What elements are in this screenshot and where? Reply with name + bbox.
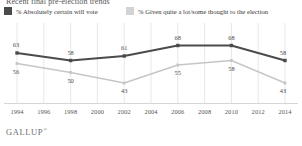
gallup-brand: GALLUP® <box>6 127 47 137</box>
data-point <box>230 59 233 62</box>
data-point <box>283 59 286 62</box>
data-point <box>16 62 19 65</box>
data-label: 43 <box>121 87 127 94</box>
data-label: 58 <box>67 49 73 56</box>
data-label: 68 <box>228 34 234 41</box>
legend-swatch-icon <box>126 7 134 15</box>
data-point <box>176 44 179 47</box>
x-tick-label: 2008 <box>198 108 211 115</box>
x-tick-label: 2002 <box>118 108 131 115</box>
data-point <box>230 44 233 47</box>
x-tick-label: 2012 <box>252 108 265 115</box>
chart-container: Recent final pre-election trends % Absol… <box>0 0 302 146</box>
x-axis: 1994199619982000200220042006200820102012… <box>0 108 302 120</box>
data-label: 43 <box>280 87 286 94</box>
x-tick-label: 1994 <box>10 108 23 115</box>
data-point <box>176 64 179 67</box>
chart-title: Recent final pre-election trends <box>6 0 110 6</box>
line-chart-svg: 565043555843635861686858 <box>0 21 302 107</box>
data-label: 68 <box>175 34 181 41</box>
legend-label: % Absolutely certain will vote <box>16 8 98 15</box>
data-label: 56 <box>13 68 19 75</box>
legend-label: % Given quite a lot/some thought to the … <box>138 8 268 15</box>
legend-item-certain-to-vote: % Absolutely certain will vote <box>4 7 98 15</box>
data-label: 58 <box>280 49 286 56</box>
data-point <box>284 82 287 85</box>
x-tick-label: 2010 <box>225 108 238 115</box>
data-label: 63 <box>13 41 19 48</box>
x-tick-label: 1998 <box>64 108 77 115</box>
x-tick-label: 2014 <box>278 108 291 115</box>
legend-item-thought-to-election: % Given quite a lot/some thought to the … <box>126 7 268 15</box>
x-tick-label: 2006 <box>171 108 184 115</box>
brand-text: GALLUP <box>6 127 43 137</box>
registered-mark: ® <box>43 127 47 132</box>
x-tick-label: 1996 <box>37 108 50 115</box>
x-tick-label: 2004 <box>144 108 157 115</box>
data-point <box>69 59 72 62</box>
data-point <box>69 71 72 74</box>
data-label: 55 <box>175 69 181 76</box>
data-label: 61 <box>121 44 127 51</box>
data-point <box>123 82 126 85</box>
chart-legend: % Absolutely certain will vote % Given q… <box>4 7 298 19</box>
data-label: 58 <box>228 65 234 72</box>
data-point <box>123 54 126 57</box>
plot-area: 565043555843635861686858 <box>0 21 302 107</box>
legend-swatch-icon <box>4 7 12 15</box>
x-tick-label: 2000 <box>91 108 104 115</box>
data-point <box>15 51 18 54</box>
data-label: 50 <box>67 77 73 84</box>
